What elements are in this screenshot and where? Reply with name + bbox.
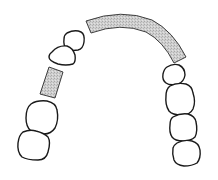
anterior-shaded-arch (86, 14, 186, 63)
dental-arch-diagram: Dental arch chart (0, 0, 218, 180)
left-tooth-upper (26, 101, 58, 134)
right-tooth-4 (173, 140, 201, 166)
left-tooth-canine (49, 46, 75, 65)
left-shaded-segment (40, 67, 63, 98)
dental-arch-svg (0, 0, 218, 180)
right-tooth-1 (163, 64, 185, 84)
right-tooth-2 (166, 83, 195, 115)
right-tooth-3 (170, 114, 197, 141)
left-tooth-lower (18, 130, 50, 160)
